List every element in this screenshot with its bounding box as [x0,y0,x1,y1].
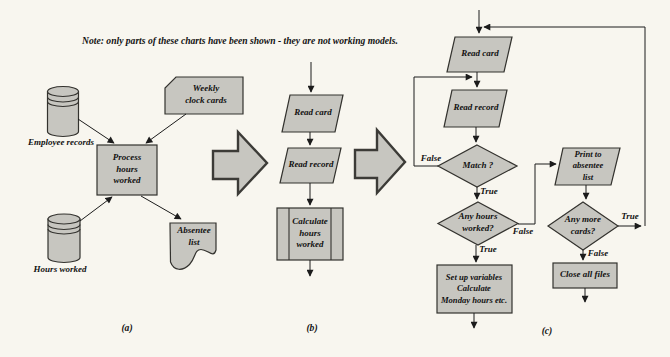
block-arrow-b-to-c-icon [355,130,405,193]
label-match-true: True [480,186,498,198]
block-arrow-a-to-b-icon [213,132,267,194]
label-hours-worked: Hours worked [34,264,87,276]
label-weekly-clock-cards: Weekly clock cards [185,83,227,106]
connector-anyhours-false-to-print [518,164,556,224]
label-any-more-true: True [621,211,639,223]
label-match-false: False [421,153,442,165]
cylinder-shape-employee-records [48,87,79,137]
connector-c-main-loop [484,27,645,226]
label-close-all-files: Close all files [560,269,610,281]
label-c-read-record: Read record [453,102,498,114]
connector-hoursworked-to-process [80,197,112,221]
label-any-hours-false: False [513,226,534,238]
label-b-read-record: Read record [288,159,333,171]
label-employee-records: Employee records [28,137,94,149]
connector-clockcards-to-process [146,114,186,143]
label-process-hours-worked: Process hours worked [113,152,142,187]
cylinder-shape-hours-worked [48,214,80,263]
caption-a: (a) [121,322,132,334]
label-match: Match ? [463,160,494,172]
label-any-more-cards: Any more cards? [565,214,601,237]
label-b-read-card: Read card [294,107,332,119]
label-any-hours-true: True [479,244,497,256]
caption-c: (c) [542,325,553,337]
label-c-read-card: Read card [461,48,499,60]
label-absentee-list: Absentee list [177,225,211,248]
label-any-hours-worked: Any hours worked? [459,211,498,234]
connector-process-to-absentee [141,196,181,219]
label-any-more-false: False [588,248,609,260]
flowchart-figure: Note: only parts of these charts have be… [0,0,670,357]
diagram-canvas [0,0,670,357]
note-text: Note: only parts of these charts have be… [82,35,398,47]
label-setup-variables: Set up variables Calculate Monday hours … [441,272,507,306]
label-b-calculate: Calculate hours worked [292,216,328,251]
label-print-absentee: Print to absentee list [573,149,604,183]
caption-b: (b) [306,322,317,334]
